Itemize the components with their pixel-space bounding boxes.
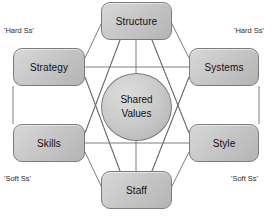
label-soft-ss-bottom-left: 'Soft Ss' — [4, 174, 31, 183]
node-skills-label: Skills — [37, 138, 61, 149]
node-structure[interactable]: Structure — [101, 2, 172, 40]
node-systems-label: Systems — [204, 62, 243, 73]
node-style[interactable]: Style — [189, 124, 259, 162]
node-strategy-label: Strategy — [30, 62, 68, 73]
node-systems[interactable]: Systems — [189, 48, 259, 86]
node-structure-label: Structure — [116, 16, 157, 27]
line-style-staff — [170, 152, 189, 190]
node-staff-label: Staff — [126, 185, 147, 196]
label-soft-ss-bottom-right: 'Soft Ss' — [231, 174, 258, 183]
node-staff[interactable]: Staff — [101, 171, 172, 209]
shared-values-line2: Values — [122, 107, 152, 121]
node-strategy[interactable]: Strategy — [13, 48, 85, 86]
node-skills[interactable]: Skills — [13, 124, 85, 162]
node-shared-values[interactable]: Shared Values — [101, 73, 172, 141]
label-hard-ss-top-right: 'Hard Ss' — [234, 26, 264, 35]
node-style-label: Style — [213, 138, 236, 149]
line-structure-systems — [170, 20, 189, 58]
label-hard-ss-top-left: 'Hard Ss' — [4, 26, 34, 35]
shared-values-line1: Shared — [120, 93, 152, 107]
seven-s-framework-diagram: Structure Strategy Systems Skills Style … — [0, 0, 276, 224]
